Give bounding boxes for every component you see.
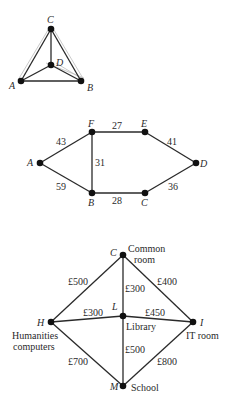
node-C <box>48 26 55 33</box>
node-I-it-room <box>190 319 197 326</box>
graph-1-complete-k4: C D A B <box>8 14 93 93</box>
node-M-school <box>120 383 127 390</box>
node-label-D: D <box>55 57 64 68</box>
edge-A-B <box>40 163 92 193</box>
node-D <box>193 160 200 167</box>
weight-F-B: 31 <box>95 157 105 168</box>
node-C-common-room <box>120 252 127 259</box>
weight-I-M: £800 <box>157 356 177 367</box>
desc-it-room: IT room <box>186 330 219 341</box>
node-label-B: B <box>87 82 93 93</box>
weight-H-C: £500 <box>68 276 88 287</box>
node-A <box>37 160 44 167</box>
node-label-H: H <box>36 317 45 328</box>
weight-A-F: 43 <box>56 136 66 147</box>
node-A <box>18 78 25 85</box>
node-label-C: C <box>110 247 117 258</box>
node-C <box>142 190 149 197</box>
node-label-E: E <box>140 118 147 129</box>
weight-A-B: 59 <box>56 181 66 192</box>
node-label-M: M <box>109 381 119 392</box>
node-label-D: D <box>199 158 208 169</box>
weight-C-I: £400 <box>157 276 177 287</box>
node-label-C: C <box>141 197 148 208</box>
node-E <box>142 129 149 136</box>
weight-L-M: £500 <box>125 344 145 355</box>
desc-library: Library <box>126 321 156 332</box>
weight-F-E: 27 <box>112 120 122 131</box>
graph-3-school-network: C H L I M Common room Humanities compute… <box>12 243 219 393</box>
weight-C-L: £300 <box>125 283 145 294</box>
weight-H-L: £300 <box>83 307 103 318</box>
desc-humanities-line1: Humanities <box>12 330 58 341</box>
weight-B-C: 28 <box>112 195 122 206</box>
node-label-F: F <box>87 118 95 129</box>
node-B <box>89 190 96 197</box>
weight-C-D: 36 <box>168 181 178 192</box>
graph-2-weighted-network: A B C D E F 43 27 41 59 31 28 36 <box>26 118 208 208</box>
node-label-A: A <box>8 80 16 91</box>
desc-common-line2: room <box>134 254 155 265</box>
node-D <box>48 62 55 69</box>
weight-H-M: £700 <box>68 356 88 367</box>
node-label-B: B <box>88 197 94 208</box>
node-label-A: A <box>26 157 34 168</box>
graphs-figure: C D A B A B C D E F 43 27 41 59 31 28 36 <box>0 0 226 393</box>
node-F <box>89 129 96 136</box>
weight-L-I: £450 <box>145 307 165 318</box>
node-label-L: L <box>111 301 118 312</box>
weight-E-D: 41 <box>167 136 177 147</box>
node-L-library <box>120 313 127 320</box>
desc-school: School <box>131 382 159 393</box>
edge-A-F <box>40 132 92 163</box>
edge-H-M <box>51 322 123 386</box>
node-label-I: I <box>199 317 204 328</box>
node-B <box>78 78 85 85</box>
desc-humanities-line2: computers <box>13 341 55 352</box>
node-H-humanities <box>48 319 55 326</box>
desc-common-line1: Common <box>128 243 165 254</box>
node-label-C: C <box>47 14 54 25</box>
